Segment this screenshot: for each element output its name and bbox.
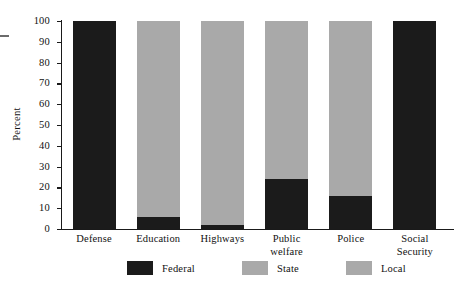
y-axis-tick: 70 [57,83,62,84]
y-axis-tick: 40 [57,146,62,147]
y-axis-tick-label: 80 [39,57,50,68]
y-axis-tick: 60 [57,104,62,105]
stacked-bar-chart: Percent 0102030405060708090100 FederalSt… [0,0,462,292]
y-axis-tick-label: 50 [39,120,50,131]
x-axis-category-label: Highways [190,233,254,246]
y-axis-tick-label: 90 [39,37,50,48]
y-axis-tick: 30 [57,167,62,168]
legend-label: State [277,263,299,274]
bar-segment [329,21,372,196]
bar-segment [265,179,308,229]
y-axis-tick: 100 [57,21,62,22]
bar-group [201,21,244,229]
legend-item-state[interactable]: State [242,261,299,275]
bar-segment [137,217,180,229]
y-axis-tick: 20 [57,187,62,188]
legend-gap [299,268,346,269]
y-axis-tick-label: 70 [39,78,50,89]
bar-segment [137,21,180,217]
y-axis-tick: 0 [57,229,62,230]
y-axis-tick: 80 [57,63,62,64]
bar-segment [201,21,244,225]
bar-segment [329,196,372,229]
bar-group [137,21,180,229]
bar-segment [265,21,308,179]
y-axis-tick: 50 [57,125,62,126]
bar-segment [201,225,244,229]
bar-group [329,21,372,229]
bar-group [73,21,116,229]
bar-segment [393,21,436,229]
y-axis-tick-label: 0 [45,224,50,235]
bar-segment [73,21,116,229]
y-axis-tick-label: 20 [39,182,50,193]
legend-label: Local [381,263,406,274]
x-axis-category-label: Social Security [383,233,447,258]
bar-group [265,21,308,229]
plot-area: 0102030405060708090100 [62,21,447,229]
y-axis-title: Percent [11,107,22,141]
y-axis-tick: 90 [57,42,62,43]
legend-swatch-icon [346,261,372,275]
legend-swatch-icon [242,261,268,275]
x-axis-category-label: Education [126,233,190,246]
chart-legend: FederalStateLocal [127,261,406,275]
legend-item-local[interactable]: Local [346,261,406,275]
y-axis-tick-label: 30 [39,161,50,172]
legend-item-federal[interactable]: Federal [127,261,195,275]
legend-gap [195,268,242,269]
x-axis-line [61,229,454,230]
legend-swatch-icon [127,261,153,275]
y-axis-tick-label: 60 [39,99,50,110]
y-axis-tick-label: 100 [34,16,50,27]
x-axis-category-label: Police [319,233,383,246]
legend-label: Federal [162,263,195,274]
y-axis-tick-label: 10 [39,203,50,214]
y-axis-tick-label: 40 [39,141,50,152]
bar-group [393,21,436,229]
x-axis-category-label: Public welfare [255,233,319,258]
x-axis-category-label: Defense [62,233,126,246]
page-edge-mark [0,35,9,37]
y-axis-tick: 10 [57,208,62,209]
